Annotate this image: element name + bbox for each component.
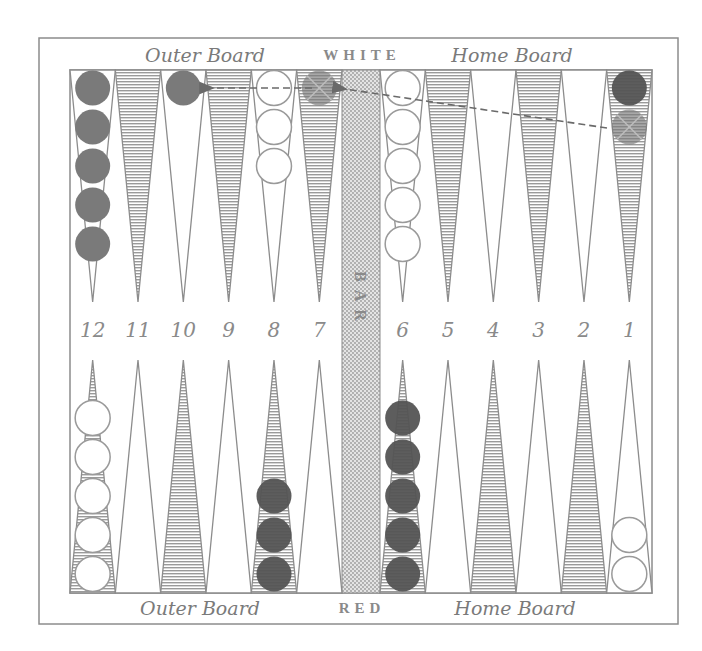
red-checker[interactable] xyxy=(385,557,420,592)
white-checker[interactable] xyxy=(385,110,420,145)
white-checker[interactable] xyxy=(75,518,110,553)
red-checker[interactable] xyxy=(75,149,110,184)
svg-text:BAR: BAR xyxy=(352,271,369,329)
red-checker[interactable] xyxy=(256,518,291,553)
bar[interactable] xyxy=(342,70,380,593)
top-right-label: Home Board xyxy=(450,44,572,66)
point-number: 12 xyxy=(80,318,105,342)
point-number: 4 xyxy=(486,318,500,342)
white-checker[interactable] xyxy=(612,557,647,592)
white-checker[interactable] xyxy=(385,149,420,184)
white-checker[interactable] xyxy=(385,71,420,106)
red-checker[interactable] xyxy=(256,479,291,514)
white-checker[interactable] xyxy=(75,401,110,436)
red-checker[interactable] xyxy=(75,188,110,223)
top-left-label: Outer Board xyxy=(145,44,265,66)
white-checker[interactable] xyxy=(75,479,110,514)
point-number: 6 xyxy=(396,318,409,342)
point-number: 3 xyxy=(532,318,545,342)
red-checker[interactable] xyxy=(75,227,110,262)
backgammon-board: 121110987654321 Outer Board WHITE Home B… xyxy=(0,0,702,651)
point-number: 9 xyxy=(222,318,235,342)
point-number: 11 xyxy=(125,318,150,342)
top-player-label: WHITE xyxy=(323,47,401,63)
red-checker[interactable] xyxy=(166,71,201,106)
white-checker[interactable] xyxy=(256,149,291,184)
point-number: 7 xyxy=(313,318,326,342)
red-checker[interactable] xyxy=(385,440,420,475)
red-checker[interactable] xyxy=(256,557,291,592)
point-number: 2 xyxy=(577,318,591,342)
point-number: 5 xyxy=(442,318,455,342)
bottom-right-label: Home Board xyxy=(453,597,575,619)
white-checker[interactable] xyxy=(75,557,110,592)
point-number: 8 xyxy=(268,318,281,342)
red-checker[interactable] xyxy=(75,110,110,145)
point-number: 1 xyxy=(623,318,636,342)
white-checker[interactable] xyxy=(612,518,647,553)
red-checker[interactable] xyxy=(385,479,420,514)
red-checker[interactable] xyxy=(385,401,420,436)
red-checker[interactable] xyxy=(612,71,647,106)
point-number: 10 xyxy=(171,318,197,342)
red-checker[interactable] xyxy=(612,110,647,145)
bottom-player-label: RED xyxy=(339,600,386,616)
bar-label: BAR xyxy=(352,271,369,329)
white-checker[interactable] xyxy=(75,440,110,475)
white-checker[interactable] xyxy=(256,110,291,145)
white-checker[interactable] xyxy=(385,188,420,223)
red-checker[interactable] xyxy=(385,518,420,553)
bottom-left-label: Outer Board xyxy=(140,597,260,619)
red-checker[interactable] xyxy=(75,71,110,106)
white-checker[interactable] xyxy=(385,227,420,262)
